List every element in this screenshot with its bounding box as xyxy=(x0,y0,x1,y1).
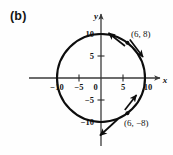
annotation-point-6-8: (6, 8) xyxy=(109,29,151,57)
x-axis-label: x xyxy=(162,75,168,85)
circle-plot: −10 −5 0 5 10 10 5 −5 −10 x y (6, 8) xyxy=(0,0,173,155)
point-marker-6-8 xyxy=(125,41,129,45)
point-marker-6-neg8 xyxy=(125,111,129,115)
point-label-6-8: (6, 8) xyxy=(131,29,151,39)
x-tick-label-5: 5 xyxy=(121,82,125,92)
y-axis-label: y xyxy=(93,11,99,21)
point-label-6-neg8: (6, −8) xyxy=(124,118,149,128)
y-tick-label-5: 5 xyxy=(90,51,94,61)
origin-label: 0 xyxy=(93,82,97,92)
x-tick-label--5: −5 xyxy=(74,82,83,92)
y-tick-label--5: −5 xyxy=(85,95,94,105)
figure-panel-b: (b) xyxy=(0,0,173,155)
tangent-arrow-down-right xyxy=(130,40,143,57)
